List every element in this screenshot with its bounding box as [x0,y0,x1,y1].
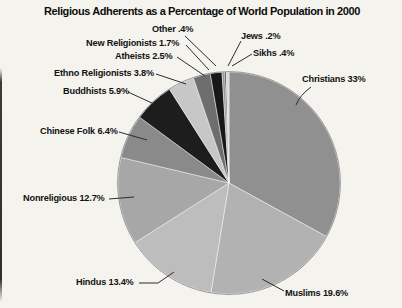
slice-label-muslims: Muslims 19.6% [285,288,348,298]
slice-label-ethno-religionists: Ethno Religionists 3.8% [54,68,154,78]
slice-label-new-religionists: New Religionists 1.7% [86,38,179,48]
slice-label-hindus: Hindus 13.4% [76,277,134,287]
slice-label-chinese-folk: Chinese Folk 6.4% [40,126,118,136]
leader-line-buddhists [128,92,154,104]
leader-line-ethno-religionists [156,74,186,84]
slice-label-atheists: Atheists 2.5% [115,51,172,61]
leader-line-atheists [177,57,205,76]
leader-line-other [185,36,216,66]
slice-label-christians: Christians 33% [302,74,365,84]
leader-line-sikhs [232,54,252,66]
figure-religious-adherents: Religious Adherents as a Percentage of W… [0,0,402,308]
slice-label-jews: Jews .2% [241,31,280,41]
slice-label-buddhists: Buddhists 5.9% [63,86,129,96]
slice-label-other: Other .4% [152,24,193,34]
slice-label-nonreligious: Nonreligious 12.7% [23,193,105,203]
slice-label-sikhs: Sikhs .4% [253,48,294,58]
pie-chart [0,0,402,308]
